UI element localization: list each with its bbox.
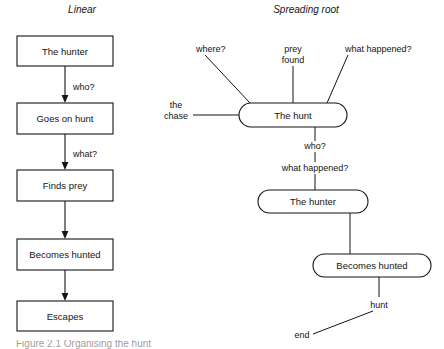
panel-title-spreading-root: Spreading root — [273, 4, 340, 15]
root-node-the-hunter: The hunter — [258, 190, 368, 213]
branch-label-end: end — [294, 330, 309, 340]
branch-label-hunt: hunt — [370, 300, 388, 310]
linear-node-becomes-hunted: Becomes hunted — [17, 239, 113, 270]
linear-edge-4 — [62, 270, 69, 301]
linear-node-label: Goes on hunt — [36, 113, 93, 124]
linear-edge-3 — [62, 201, 69, 239]
linear-node-label: The hunter — [42, 46, 88, 57]
branch-line-where — [205, 55, 250, 103]
root-node-label: The hunt — [274, 110, 312, 121]
branch-line-what-happened-top — [327, 55, 348, 103]
branch-label-prey: prey — [284, 44, 302, 54]
linear-node-the-hunter: The hunter — [17, 36, 113, 66]
root-node-label: Becomes hunted — [336, 260, 407, 271]
linear-edge-label-what: what? — [72, 149, 97, 159]
link-line-hunt-to-end — [313, 311, 373, 334]
linear-edge-1: who? — [62, 66, 95, 103]
linear-edge-2: what? — [62, 134, 97, 170]
arrow-head-icon — [62, 231, 69, 239]
root-node-label: The hunter — [290, 196, 336, 207]
linear-node-goes-on-hunt: Goes on hunt — [17, 103, 113, 134]
branch-label-who: who? — [303, 141, 326, 151]
linear-node-escapes: Escapes — [17, 301, 113, 331]
panel-title-linear: Linear — [68, 4, 96, 15]
linear-edge-label-who: who? — [72, 82, 95, 92]
arrow-head-icon — [62, 293, 69, 301]
branch-label-chase: chase — [164, 111, 188, 121]
figure-page: Linear The hunter Goes on hunt Finds pre… — [0, 0, 444, 349]
branch-label-what-happened-lower: what happened? — [281, 163, 349, 173]
figure-caption-strip: Figure 2.1 Organising the hunt — [0, 340, 444, 349]
linear-node-label: Becomes hunted — [29, 249, 100, 260]
figure-caption: Figure 2.1 Organising the hunt — [16, 340, 151, 349]
branch-label-what-happened-top: what happened? — [344, 44, 412, 54]
branch-label-found: found — [282, 55, 305, 65]
diagram-canvas: Linear The hunter Goes on hunt Finds pre… — [0, 0, 444, 349]
linear-node-finds-prey: Finds prey — [17, 170, 113, 201]
branch-label-the: the — [170, 100, 183, 110]
root-node-becomes-hunted: Becomes hunted — [313, 254, 431, 277]
branch-label-where: where? — [195, 44, 226, 54]
arrow-head-icon — [62, 162, 69, 170]
root-node-the-hunt: The hunt — [239, 103, 347, 127]
linear-node-label: Finds prey — [43, 180, 88, 191]
linear-node-label: Escapes — [47, 311, 84, 322]
arrow-head-icon — [62, 95, 69, 103]
